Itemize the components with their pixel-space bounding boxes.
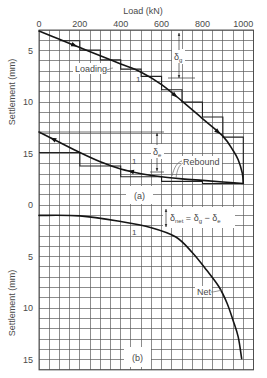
x-axis-title: Load (kN)	[123, 6, 163, 16]
delta-net-minus: −	[202, 213, 212, 223]
load-settlement-chart: 0200400600800100051015051015 Load (kN) S…	[0, 0, 267, 378]
y-tick-label-b: 0	[28, 200, 33, 210]
y-tick-label-a: 10	[23, 97, 33, 107]
delta-net-equals: =	[183, 213, 193, 223]
x-tick-label: 200	[72, 19, 87, 29]
slope-mark-loading: 1	[136, 75, 141, 84]
direction-arrows	[49, 42, 222, 174]
y-tick-label-b: 15	[23, 355, 33, 365]
x-tick-label: 400	[113, 19, 128, 29]
loading-leader	[106, 68, 113, 70]
delta-g-subscript: g	[179, 57, 182, 63]
rebound-label: Rebound	[183, 157, 220, 167]
loading-label: Loading	[75, 64, 107, 74]
x-tick-label: 800	[195, 19, 210, 29]
loading-direction-arrow-icon	[71, 42, 78, 49]
y-tick-label-b: 5	[28, 252, 33, 262]
slope-mark-net: 1	[132, 228, 137, 237]
x-tick-label: 600	[154, 19, 169, 29]
x-tick-label: 0	[36, 19, 41, 29]
y-tick-label-a: 5	[28, 46, 33, 56]
panel-a-label: (a)	[134, 191, 145, 201]
net-label: Net	[197, 287, 212, 297]
y-tick-label-b: 10	[23, 303, 33, 313]
slope-mark-rebound: 1	[132, 157, 137, 166]
label-backgrounds	[73, 49, 235, 367]
x-tick-label: 1000	[233, 19, 253, 29]
y-tick-label-a: 15	[23, 149, 33, 159]
panel-b-label: (b)	[132, 353, 143, 363]
rebound-direction-arrow-icon	[49, 136, 57, 143]
y-axis-title-a: Settlement (mm)	[7, 59, 17, 126]
y-axis-title-b: Settlement (mm)	[7, 270, 17, 337]
